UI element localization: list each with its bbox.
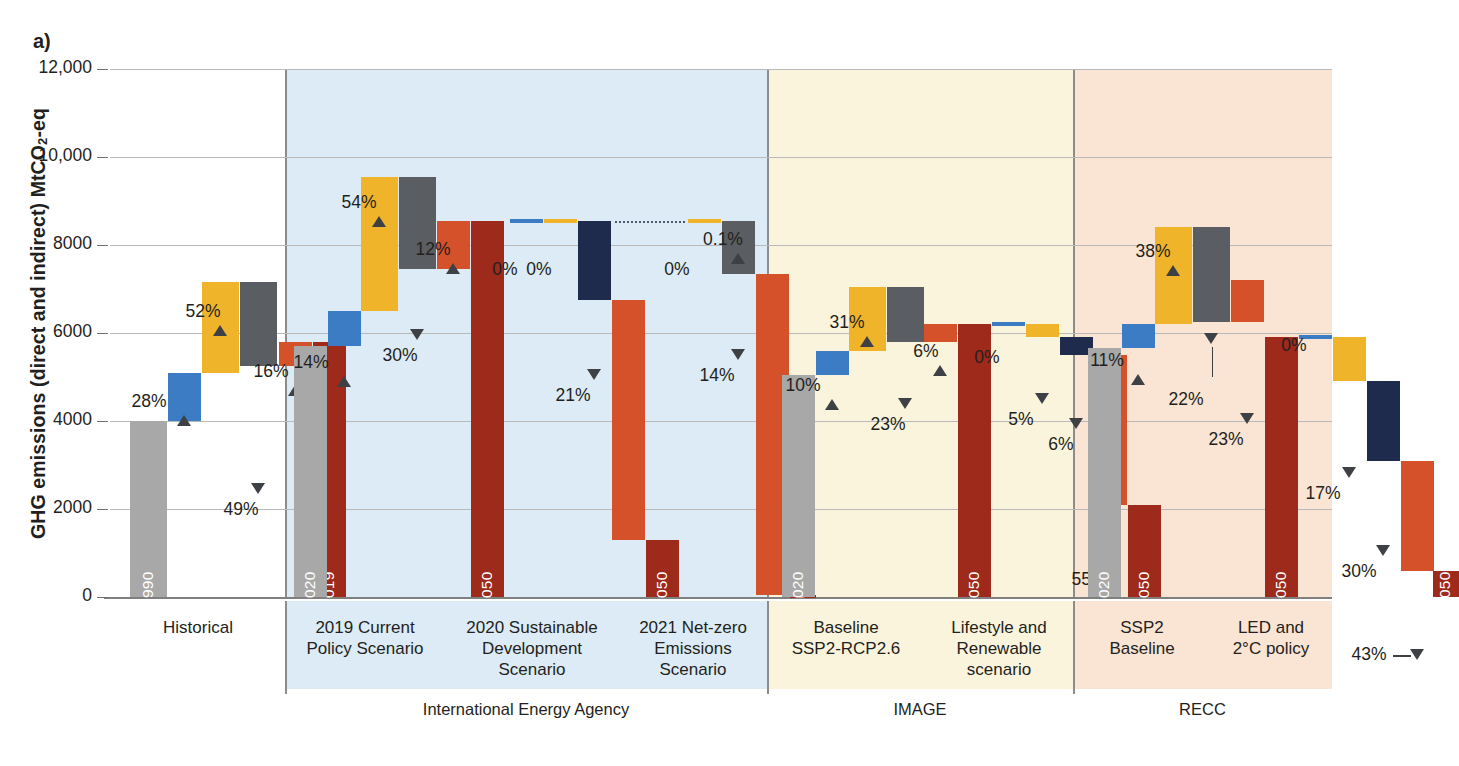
x-axis-scenario-label: LED and2°C policy — [1210, 617, 1332, 659]
x-label-line: Policy Scenario — [290, 638, 440, 659]
y-tick-label-6000: 6000 — [53, 321, 92, 342]
decrease-arrow-icon — [1069, 418, 1083, 429]
percent-change-label: 0.1% — [698, 229, 748, 250]
y-tick-label-4000: 4000 — [53, 409, 92, 430]
increase-arrow-icon — [860, 336, 874, 347]
annotation-leader-line — [1393, 655, 1411, 657]
y-axis-title-pre: GHG emissions (direct and indirect) MtCO — [27, 145, 49, 539]
y-tick-label-12000: 12,000 — [38, 57, 92, 78]
x-axis-group-labels: International Energy AgencyIMAGERECC — [110, 700, 1338, 740]
x-label-line: Development — [448, 638, 616, 659]
percent-change-label: 31% — [822, 312, 872, 333]
y-tick-mark-8000 — [97, 245, 108, 246]
gridline-10000 — [110, 157, 1332, 158]
percent-change-label: 28% — [124, 391, 174, 412]
x-label-line: SSP2 — [1076, 617, 1208, 638]
increase-arrow-icon — [1166, 265, 1180, 276]
x-label-line: Emissions — [622, 638, 764, 659]
delta-bar-population — [510, 219, 543, 223]
bar-year-label: 2050 — [1436, 571, 1454, 607]
x-label-line: scenario — [928, 659, 1070, 680]
delta-bar-carbon_intensity — [578, 221, 611, 300]
x-label-line: 2021 Net-zero — [622, 617, 764, 638]
y-tick-mark-6000 — [97, 333, 108, 334]
increase-arrow-icon — [213, 325, 227, 336]
percent-change-label: 11% — [1082, 350, 1132, 371]
increase-arrow-icon — [446, 263, 460, 274]
percent-change-label: 21% — [548, 385, 598, 406]
x-axis-scenario-label: SSP2Baseline — [1076, 617, 1208, 659]
delta-bar-population — [992, 322, 1025, 326]
x-axis-scenario-label: 2019 CurrentPolicy Scenario — [290, 617, 440, 659]
decrease-arrow-icon — [1035, 393, 1049, 404]
delta-bar-carbon_intensity — [1367, 381, 1400, 460]
percent-change-label: 38% — [1128, 241, 1178, 262]
decrease-arrow-icon — [1410, 649, 1424, 660]
delta-bar-energy_intensity — [1231, 280, 1264, 322]
percent-change-label: 5% — [996, 409, 1046, 430]
percent-change-label: 6% — [901, 341, 951, 362]
x-axis-group-label: RECC — [1073, 700, 1332, 719]
x-axis-scenario-label: BaselineSSP2-RCP2.6 — [770, 617, 922, 659]
y-tick-mark-0 — [97, 597, 108, 598]
x-label-line: 2019 Current — [290, 617, 440, 638]
x-label-line: Scenario — [622, 659, 764, 680]
y-tick-label-0: 0 — [82, 585, 92, 606]
y-tick-mark-12000 — [97, 69, 108, 70]
percent-change-label: 14% — [286, 352, 336, 373]
increase-arrow-icon — [825, 399, 839, 410]
delta-bar-affluence — [1026, 324, 1059, 337]
percent-change-label: 10% — [778, 375, 828, 396]
delta-bar-affluence — [544, 219, 577, 223]
y-tick-mark-2000 — [97, 509, 108, 510]
y-axis-title: GHG emissions (direct and indirect) MtCO… — [27, 64, 50, 584]
delta-bar-material_intensity — [1193, 227, 1230, 322]
decrease-arrow-icon — [410, 329, 424, 340]
x-axis-scenario-labels: Historical2019 CurrentPolicy Scenario202… — [110, 601, 1338, 701]
delta-bar-population — [1122, 324, 1155, 348]
x-axis-scenario-label: Lifestyle andRenewablescenario — [928, 617, 1070, 680]
y-tick-mark-4000 — [97, 421, 108, 422]
x-axis-scenario-label: 2020 SustainableDevelopmentScenario — [448, 617, 616, 680]
gridline-12000 — [110, 69, 1332, 70]
x-label-line: LED and — [1210, 617, 1332, 638]
panel-letter: a) — [33, 30, 51, 53]
x-label-line: Renewable — [928, 638, 1070, 659]
x-label-line: SSP2-RCP2.6 — [770, 638, 922, 659]
percent-change-label: 17% — [1298, 483, 1348, 504]
increase-arrow-icon — [1131, 374, 1145, 385]
increase-arrow-icon — [337, 376, 351, 387]
percent-change-label: 52% — [178, 301, 228, 322]
x-label-line: 2°C policy — [1210, 638, 1332, 659]
x-label-line: 2020 Sustainable — [448, 617, 616, 638]
percent-change-label: 0% — [652, 259, 702, 280]
percent-change-label: 43% — [1344, 644, 1394, 665]
decrease-arrow-icon — [1204, 333, 1218, 344]
y-tick-label-8000: 8000 — [53, 233, 92, 254]
percent-change-label: 0% — [962, 347, 1012, 368]
percent-change-label: 54% — [334, 192, 384, 213]
percent-change-label: 22% — [1161, 389, 1211, 410]
increase-arrow-icon — [731, 253, 745, 264]
y-tick-label-2000: 2000 — [53, 497, 92, 518]
x-label-line: Historical — [118, 617, 278, 638]
x-axis-scenario-label: 2021 Net-zeroEmissionsScenario — [622, 617, 764, 680]
percent-change-label: 6% — [1036, 434, 1086, 455]
y-axis-title-post: -eq — [27, 108, 49, 138]
decrease-arrow-icon — [1376, 545, 1390, 556]
y-tick-label-10000: 10,000 — [38, 145, 92, 166]
y-tick-mark-10000 — [97, 157, 108, 158]
percent-change-label: 0% — [514, 259, 564, 280]
annotation-leader-line — [1212, 347, 1214, 377]
increase-arrow-icon — [177, 415, 191, 426]
x-label-line: Baseline — [1076, 638, 1208, 659]
delta-bar-material_intensity — [240, 282, 277, 366]
decrease-arrow-icon — [1240, 413, 1254, 424]
decrease-arrow-icon — [587, 369, 601, 380]
x-label-line: Scenario — [448, 659, 616, 680]
delta-bar-energy_intensity — [612, 300, 645, 540]
decrease-arrow-icon — [1342, 467, 1356, 478]
delta-bar-energy_intensity — [1401, 461, 1434, 571]
dotted-connector-line — [615, 221, 685, 223]
